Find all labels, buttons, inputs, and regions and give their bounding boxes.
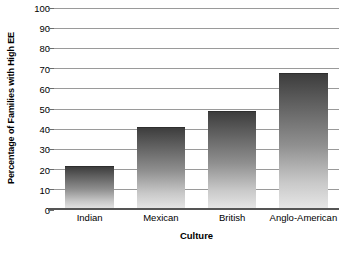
- bar[interactable]: [137, 127, 185, 210]
- plot-area: [54, 8, 339, 210]
- x-axis-tick-labels: IndianMexicanBritishAnglo-American: [54, 212, 339, 228]
- x-axis-tick-label: British: [219, 212, 245, 223]
- x-axis-title: Culture: [54, 230, 339, 241]
- x-axis-line: [48, 208, 339, 210]
- bar-slot: [197, 8, 268, 210]
- bar-chart: Percentage of Families with High EE 0102…: [0, 0, 349, 256]
- bar-slot: [54, 8, 125, 210]
- y-axis-title: Percentage of Families with High EE: [0, 0, 22, 216]
- bar[interactable]: [65, 166, 113, 210]
- x-axis-tick-label: Indian: [77, 212, 103, 223]
- bar-slot: [268, 8, 339, 210]
- bar-series: [54, 8, 339, 210]
- bar[interactable]: [279, 73, 327, 210]
- bar[interactable]: [208, 111, 256, 210]
- x-axis-tick-label: Anglo-American: [270, 212, 338, 223]
- x-axis-tick-label: Mexican: [143, 212, 178, 223]
- y-axis-title-text: Percentage of Families with High EE: [6, 32, 16, 184]
- bar-slot: [125, 8, 196, 210]
